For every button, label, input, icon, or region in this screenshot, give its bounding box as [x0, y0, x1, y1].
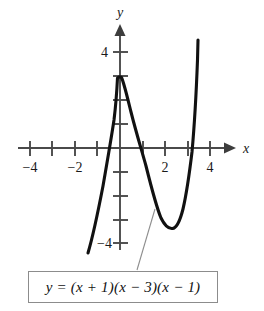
y-axis-label: y	[115, 5, 124, 20]
x-axis-label: x	[242, 141, 250, 156]
y-tick-label-4: 4	[101, 45, 108, 60]
x-tick-label--2: −2	[68, 160, 83, 175]
graph-figure: −4 −2 2 4 4 −4 x y	[0, 0, 264, 311]
equation-callout-box: y = (x + 1)(x − 3)(x − 1)	[28, 271, 218, 303]
x-axis-arrowhead	[224, 143, 236, 154]
equation-text: y = (x + 1)(x − 3)(x − 1)	[46, 279, 201, 296]
x-tick-label-2: 2	[162, 160, 169, 175]
x-tick-label-4: 4	[207, 160, 214, 175]
y-tick-label--4: −4	[97, 236, 112, 251]
y-axis-arrowhead	[115, 24, 126, 36]
annotation-leader-line	[137, 209, 155, 270]
x-tick-label--4: −4	[23, 160, 38, 175]
